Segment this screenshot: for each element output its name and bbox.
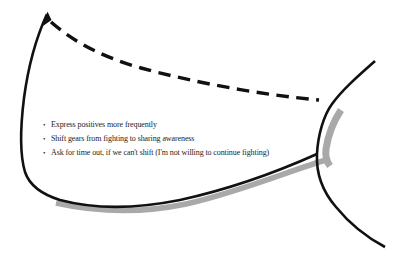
- bullet-item: • Shift gears from fighting to sharing a…: [43, 132, 269, 146]
- bullet-item: • Ask for time out, if we can't shift (I…: [43, 146, 269, 160]
- bullet-item: • Express positives more frequently: [43, 118, 269, 132]
- bullet-marker: •: [43, 119, 51, 132]
- diagram-canvas: • Express positives more frequently • Sh…: [0, 0, 407, 261]
- bullet-text: Express positives more frequently: [51, 118, 157, 131]
- bullet-text: Ask for time out, if we can't shift (I'm…: [51, 146, 269, 159]
- bullet-marker: •: [43, 133, 51, 146]
- bullet-marker: •: [43, 147, 51, 160]
- bullet-text: Shift gears from fighting to sharing awa…: [51, 132, 194, 145]
- cliff-shadow-band: [326, 110, 341, 166]
- dashed-decay-curve: [51, 22, 319, 100]
- bullet-list: • Express positives more frequently • Sh…: [43, 118, 269, 160]
